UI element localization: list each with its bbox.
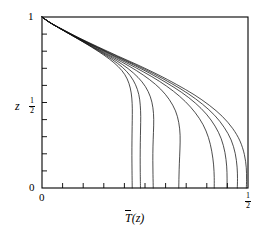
x-tick-half-denominator: 2 xyxy=(245,202,251,210)
plot-frame xyxy=(42,17,248,188)
curve-8 xyxy=(42,17,247,188)
x-tick-label-half: 1 2 xyxy=(245,192,251,210)
curve-5 xyxy=(42,17,214,188)
x-axis-title-symbol: T xyxy=(125,211,132,226)
axes-frame xyxy=(42,17,248,188)
figure-container: z 1 1 2 0 0 1 2 T(z) xyxy=(0,0,277,237)
x-axis-title: T(z) xyxy=(125,211,144,226)
curve-4 xyxy=(42,17,180,188)
x-axis-ticks xyxy=(63,183,228,188)
y-tick-label-1: 1 xyxy=(28,10,34,22)
curve-2 xyxy=(42,17,141,188)
y-tick-half-numerator: 1 xyxy=(29,97,35,105)
x-tick-label-0: 0 xyxy=(39,191,45,203)
y-tick-label-0: 0 xyxy=(29,181,35,193)
y-tick-label-half: 1 2 xyxy=(29,97,35,115)
y-axis-ticks xyxy=(42,34,47,171)
x-tick-half-numerator: 1 xyxy=(245,192,251,200)
y-axis-title: z xyxy=(15,99,20,114)
overbar xyxy=(125,210,131,211)
y-tick-half-denominator: 2 xyxy=(29,107,35,115)
curve-3 xyxy=(42,17,154,188)
x-axis-title-symbol-text: T xyxy=(125,211,132,225)
curve-6 xyxy=(42,17,227,188)
curve-group xyxy=(42,17,247,188)
x-axis-title-arg: (z) xyxy=(132,211,145,225)
